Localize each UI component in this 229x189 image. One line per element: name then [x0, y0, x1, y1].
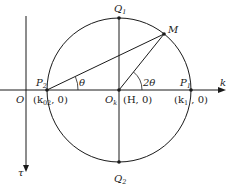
point-ok — [117, 88, 121, 92]
line-ok-m — [119, 34, 164, 90]
label-m: M — [167, 24, 179, 35]
label-p1: P1 — [179, 77, 191, 90]
label-tau-axis: τ — [18, 167, 24, 178]
label-ok-coord: (H, 0) — [123, 94, 152, 105]
point-q2 — [117, 160, 121, 164]
point-m — [162, 32, 166, 36]
two-theta-arc — [134, 72, 143, 90]
label-q2: Q2 — [114, 173, 126, 186]
label-k-axis: k — [220, 77, 226, 88]
label-p2-coord: (k02, 0) — [33, 94, 68, 107]
label-two-theta: 2θ — [142, 77, 155, 88]
label-q1: Q1 — [114, 3, 126, 16]
point-q1 — [117, 16, 121, 20]
label-theta: θ — [79, 77, 85, 88]
circle-diagram: Q1 Q2 M P2 P1 θ 2θ k τ O (k02, 0) Ok (H,… — [0, 0, 229, 189]
label-origin: O — [16, 94, 24, 105]
theta-arc — [76, 77, 79, 90]
label-ok: Ok — [105, 94, 117, 107]
label-p1-coord: (k1 , 0) — [174, 94, 208, 107]
label-p2: P2 — [35, 77, 47, 90]
tau-axis-arrow-icon — [23, 165, 29, 172]
